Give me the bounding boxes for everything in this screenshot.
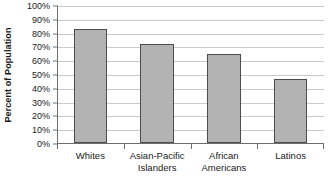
- x-axis-category-labels: WhitesAsian-PacificIslandersAfricanAmeri…: [57, 150, 324, 184]
- bar[interactable]: [74, 29, 107, 143]
- y-axis-tick-label: 70%: [32, 42, 50, 52]
- bar-chart: Percent of Population 0%10%20%30%40%50%6…: [0, 0, 335, 186]
- x-axis-category-label-line: Asian-Pacific: [130, 150, 185, 161]
- bar[interactable]: [207, 54, 240, 143]
- x-axis-category-label: Asian-PacificIslanders: [124, 150, 191, 174]
- x-axis-tick-mark: [57, 144, 58, 149]
- x-axis-tick-mark: [257, 144, 258, 149]
- bars-layer: [57, 6, 324, 144]
- y-axis-title: Percent of Population: [0, 0, 16, 150]
- x-axis-category-label: AfricanAmericans: [191, 150, 258, 174]
- x-axis-category-label-line: Americans: [191, 162, 258, 174]
- y-axis-tick-label: 20%: [32, 111, 50, 121]
- x-axis-category-label: Whites: [57, 150, 124, 162]
- x-axis-category-label-line: African: [209, 150, 239, 161]
- x-axis-tick-mark: [124, 144, 125, 149]
- y-axis-tick-label: 10%: [32, 125, 50, 135]
- y-axis-tick-label: 90%: [32, 15, 50, 25]
- x-axis-category-label-line: Whites: [76, 150, 105, 161]
- y-axis-tick-label: 40%: [32, 84, 50, 94]
- x-axis-category-label: Latinos: [257, 150, 324, 162]
- x-axis-category-ticks: [57, 144, 324, 149]
- x-axis-tick-mark: [323, 144, 324, 149]
- y-axis-tick-label: 0%: [37, 139, 50, 149]
- y-axis-tick-label: 50%: [32, 70, 50, 80]
- y-axis-title-text: Percent of Population: [3, 27, 13, 122]
- x-axis-category-label-line: Latinos: [275, 150, 306, 161]
- x-axis-tick-mark: [191, 144, 192, 149]
- bar[interactable]: [140, 44, 173, 143]
- y-axis-tick-label: 30%: [32, 98, 50, 108]
- x-axis-category-label-line: Islanders: [124, 162, 191, 174]
- plot-area: [57, 6, 324, 144]
- y-axis-tick-label: 60%: [32, 56, 50, 66]
- y-axis-tick-label: 80%: [32, 29, 50, 39]
- y-axis-tick-label: 100%: [27, 1, 50, 11]
- y-axis-tick-labels: 0%10%20%30%40%50%60%70%80%90%100%: [16, 6, 53, 144]
- bar[interactable]: [274, 79, 307, 143]
